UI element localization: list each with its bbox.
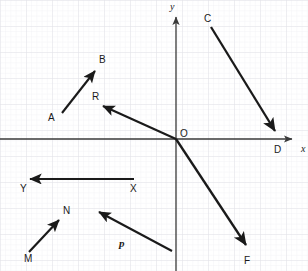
- point-label-c: C: [204, 14, 211, 24]
- point-label-a: A: [48, 113, 55, 123]
- vector-arrow-r: [103, 106, 176, 139]
- point-label-f: F: [244, 256, 250, 266]
- axis-label-y: y: [170, 2, 174, 12]
- point-label-y: Y: [20, 184, 27, 194]
- vector-arrow-ab: [62, 71, 95, 113]
- vector-arrow-p: [99, 212, 172, 251]
- point-label-n: N: [63, 206, 70, 216]
- point-label-b: B: [99, 55, 106, 65]
- vector-arrows-layer: [0, 0, 308, 271]
- vector-arrow-mn: [29, 220, 59, 252]
- point-label-m: M: [24, 254, 32, 264]
- vector-label-p: p: [119, 238, 125, 249]
- point-label-x: X: [130, 184, 137, 194]
- origin-label: O: [180, 129, 188, 139]
- point-label-r: R: [92, 92, 99, 102]
- point-label-d: D: [274, 145, 281, 155]
- vector-diagram-figure: x y O A B R C D F X Y M N p: [0, 0, 308, 271]
- vector-arrow-cd: [211, 27, 275, 131]
- vector-arrow-of: [176, 139, 246, 245]
- axis-label-x: x: [301, 144, 305, 154]
